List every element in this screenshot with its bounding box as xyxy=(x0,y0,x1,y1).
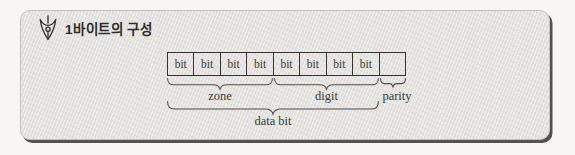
bit-cell-label: bit xyxy=(254,58,266,70)
panel-title: 1바이트의 구성 xyxy=(65,18,152,38)
bit-cell: bit xyxy=(194,53,220,75)
page-background: 1바이트의 구성 bit bit bit bit bit bit bit bit… xyxy=(0,0,575,155)
parity-cell xyxy=(380,53,405,75)
bit-cell-label: bit xyxy=(333,58,345,70)
pen-nib-icon xyxy=(38,15,58,41)
bit-cell: bit xyxy=(247,53,273,75)
bit-cell-label: bit xyxy=(360,58,372,70)
bit-cell: bit xyxy=(327,53,353,75)
byte-composition-panel: 1바이트의 구성 bit bit bit bit bit bit bit bit… xyxy=(20,10,550,140)
bit-cell-label: bit xyxy=(201,58,213,70)
bit-row: bit bit bit bit bit bit bit bit xyxy=(167,52,406,76)
bit-cell: bit xyxy=(221,53,247,75)
panel-header: 1바이트의 구성 xyxy=(38,15,152,41)
bit-cell: bit xyxy=(353,53,379,75)
data-bit-brace xyxy=(167,101,379,115)
bit-cell-label: bit xyxy=(228,58,240,70)
bit-cell: bit xyxy=(300,53,326,75)
data-bit-label: data bit xyxy=(167,114,379,129)
bit-cell-label: bit xyxy=(307,58,319,70)
bit-cell: bit xyxy=(274,53,300,75)
bit-cell-label: bit xyxy=(280,58,292,70)
bit-cell: bit xyxy=(168,53,194,75)
bit-cell-label: bit xyxy=(175,58,187,70)
